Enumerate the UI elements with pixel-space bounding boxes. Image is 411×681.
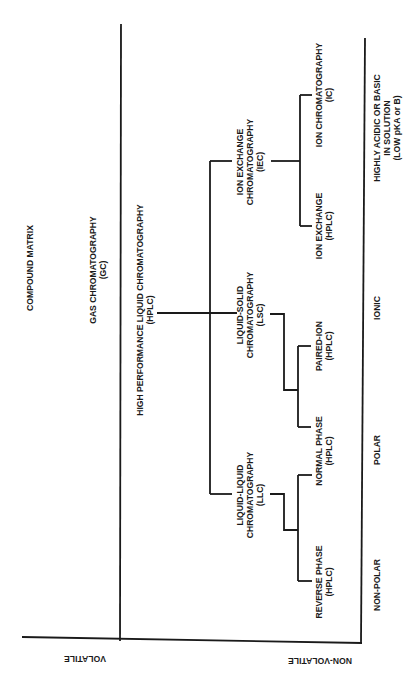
svg-text:LIQUID-LIQUID: LIQUID-LIQUID [235,464,245,525]
node-ion-exchange-chromatography: ION EXCHANGE CHROMATOGRAPHY (IEC) [235,118,265,205]
svg-text:NON-VOLATILE: NON-VOLATILE [288,656,352,666]
svg-text:(LOW pKA or B): (LOW pKA or B) [392,95,402,160]
gc-label: GAS CHROMATOGRAPHY [88,216,98,324]
svg-text:POLAR: POLAR [372,434,382,465]
node-gas-chromatography: GAS CHROMATOGRAPHY (GC) [88,216,108,324]
leaf-ion-chromatography: ION CHROMATOGRAPHY (IC) [314,43,334,148]
svg-text:(IC): (IC) [324,88,334,102]
svg-text:VOLATILE: VOLATILE [64,654,106,664]
llc-stem [270,494,298,530]
node-liquid-liquid-chromatography: LIQUID-LIQUID CHROMATOGRAPHY (LLC) [235,451,265,538]
title-text: COMPOUND MATRIX [25,225,35,311]
svg-text:NON-POLAR: NON-POLAR [372,558,382,611]
hplc-abbrev: (HPLC) [145,295,155,324]
hplc-label: HIGH PERFORMANCE LIQUID CHROMATOGRAPHY [135,204,145,416]
leaf-reverse-phase: REVERSE PHASE (HPLC) [314,545,334,618]
node-hplc: HIGH PERFORMANCE LIQUID CHROMATOGRAPHY (… [135,204,155,416]
svg-text:CHROMATOGRAPHY: CHROMATOGRAPHY [245,271,255,358]
gc-abbrev: (GC) [98,261,108,280]
ionic-label: IONIC [372,296,382,320]
svg-text:(HPLC): (HPLC) [324,436,334,465]
svg-text:CHROMATOGRAPHY: CHROMATOGRAPHY [245,451,255,538]
svg-text:NORMAL PHASE: NORMAL PHASE [314,416,324,486]
svg-text:(LLC): (LLC) [255,484,265,507]
svg-text:(HPLC): (HPLC) [324,567,334,596]
volatility-baseline [22,637,362,643]
svg-text:IN SOLUTION: IN SOLUTION [382,100,392,155]
svg-text:PAIRED-ION: PAIRED-ION [314,321,324,371]
svg-text:LIQUID-SOLID: LIQUID-SOLID [235,286,245,344]
svg-text:(HPLC): (HPLC) [324,211,334,240]
svg-text:ION EXCHANGE: ION EXCHANGE [235,129,245,196]
polar-label: POLAR [372,434,382,465]
chromatography-selection-diagram: COMPOUND MATRIX VOLATILE NON-VOLATILE GA… [0,0,411,681]
volatile-label: VOLATILE [64,654,106,664]
svg-text:(LSC): (LSC) [255,303,265,326]
non-polar-label: NON-POLAR [372,558,382,611]
highly-acidic-basic-label: HIGHLY ACIDIC OR BASIC IN SOLUTION (LOW … [372,74,402,182]
leaf-paired-ion: PAIRED-ION (HPLC) [314,321,334,371]
leaf-normal-phase: NORMAL PHASE (HPLC) [314,416,334,486]
non-volatile-label: NON-VOLATILE [288,656,352,666]
svg-text:HIGHLY ACIDIC OR BASIC: HIGHLY ACIDIC OR BASIC [372,74,382,182]
svg-text:(IEC): (IEC) [255,152,265,172]
svg-text:REVERSE PHASE: REVERSE PHASE [314,545,324,618]
svg-text:IONIC: IONIC [372,296,382,320]
svg-text:CHROMATOGRAPHY: CHROMATOGRAPHY [245,118,255,205]
polarity-axis-line [361,38,365,643]
svg-text:ION CHROMATOGRAPHY: ION CHROMATOGRAPHY [314,43,324,148]
lsc-stem [270,314,298,390]
node-liquid-solid-chromatography: LIQUID-SOLID CHROMATOGRAPHY (LSC) [235,271,265,358]
svg-text:ION EXCHANGE: ION EXCHANGE [314,193,324,260]
compound-matrix-title: COMPOUND MATRIX [25,225,35,311]
volatility-divider-line [120,24,121,641]
leaf-ion-exchange-hplc: ION EXCHANGE (HPLC) [314,193,334,260]
svg-text:(HPLC): (HPLC) [324,331,334,360]
